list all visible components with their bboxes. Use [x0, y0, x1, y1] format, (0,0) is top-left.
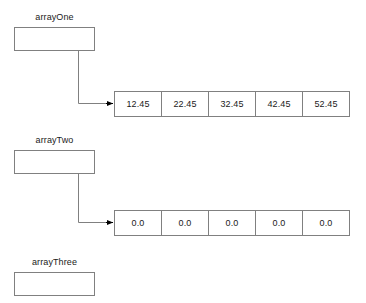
array-cell: 0.0 [209, 211, 256, 235]
array-cell: 52.45 [303, 92, 349, 116]
variable-label-arrayone: arrayOne [14, 12, 95, 22]
variable-label-arraythree: arrayThree [14, 257, 95, 267]
array-reference-diagram: arrayOne 12.45 22.45 32.45 42.45 52.45 a… [0, 0, 366, 303]
array-cell: 32.45 [209, 92, 256, 116]
array-cell: 0.0 [303, 211, 349, 235]
array-cell: 22.45 [162, 92, 209, 116]
array-object-arrayone: 12.45 22.45 32.45 42.45 52.45 [114, 91, 350, 117]
variable-label-arraytwo: arrayTwo [14, 135, 95, 145]
array-cell: 12.45 [115, 92, 162, 116]
array-cell: 0.0 [162, 211, 209, 235]
array-cell: 42.45 [256, 92, 303, 116]
reference-box-arrayone [14, 27, 95, 51]
array-object-arraytwo: 0.0 0.0 0.0 0.0 0.0 [114, 210, 350, 236]
array-cell: 0.0 [256, 211, 303, 235]
array-cell: 0.0 [115, 211, 162, 235]
reference-box-arraytwo [14, 150, 95, 174]
reference-box-arraythree [14, 272, 95, 296]
